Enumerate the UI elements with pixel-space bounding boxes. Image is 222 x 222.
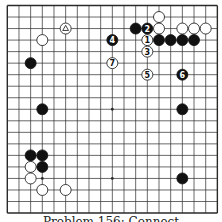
black-stone — [37, 150, 48, 161]
white-stone — [177, 23, 188, 34]
white-stone — [60, 184, 71, 195]
star-point — [111, 108, 114, 111]
stones-layer: 2143756 — [25, 12, 211, 196]
white-stone: 3 — [142, 46, 153, 57]
star-point — [111, 177, 114, 180]
black-stone — [189, 35, 200, 46]
move-number: 6 — [180, 71, 186, 80]
black-stone — [177, 173, 188, 184]
white-stone — [189, 23, 200, 34]
black-stone — [154, 35, 165, 46]
white-stone — [60, 23, 71, 34]
black-stone: 2 — [142, 23, 153, 34]
white-stone — [154, 12, 165, 23]
black-stone — [37, 104, 48, 115]
black-stone — [130, 23, 141, 34]
move-number: 2 — [145, 25, 151, 34]
white-stone: 5 — [142, 69, 153, 80]
problem-caption: Problem 156: Connect — [0, 215, 222, 222]
move-number: 4 — [110, 36, 116, 45]
white-stone — [200, 23, 211, 34]
white-stone: 7 — [107, 58, 118, 69]
black-stone: 4 — [107, 35, 118, 46]
black-stone — [165, 35, 176, 46]
move-number: 3 — [145, 48, 151, 57]
white-stone — [154, 23, 165, 34]
white-stone — [37, 184, 48, 195]
move-number: 5 — [145, 71, 151, 80]
go-board: 2143756 — [0, 0, 222, 222]
move-number: 1 — [145, 36, 151, 45]
move-number: 7 — [110, 59, 116, 68]
white-stone — [25, 173, 36, 184]
star-point — [41, 177, 44, 180]
black-stone — [177, 35, 188, 46]
white-stone: 1 — [142, 35, 153, 46]
black-stone — [25, 58, 36, 69]
black-stone: 6 — [177, 69, 188, 80]
white-stone — [37, 35, 48, 46]
black-stone — [37, 161, 48, 172]
white-stone — [25, 161, 36, 172]
black-stone — [177, 104, 188, 115]
black-stone — [25, 150, 36, 161]
